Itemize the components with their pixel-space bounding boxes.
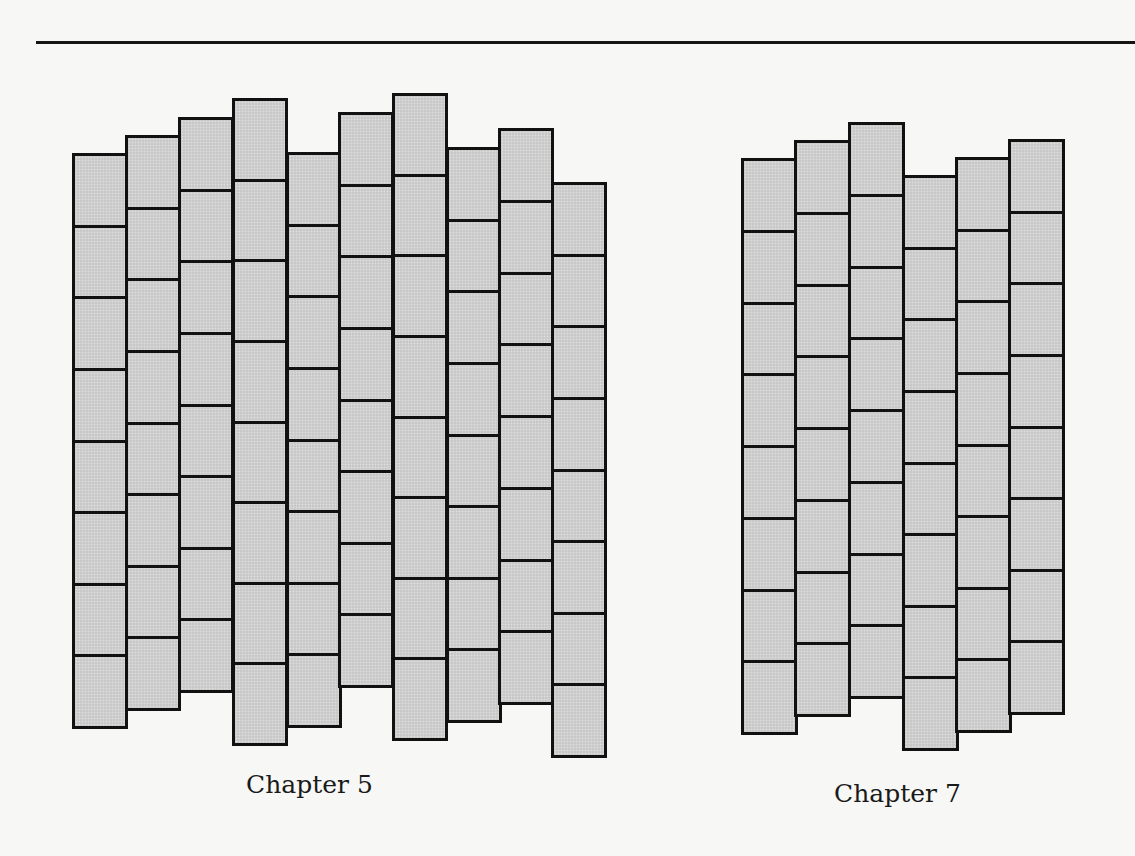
brick-divider [1011,282,1062,285]
brick-divider [1011,211,1062,214]
brick-divider [958,658,1009,661]
brick-divider [797,284,848,287]
brick-divider [851,409,902,412]
caption-chapter-7: Chapter 7 [834,779,961,808]
brick-divider [851,481,902,484]
brick-divider [797,355,848,358]
brick-divider [851,337,902,340]
brick-divider [905,390,956,393]
brick-divider [958,229,1009,232]
brick-divider [905,462,956,465]
brick-divider [1011,426,1062,429]
brick-divider [905,247,956,250]
brick-divider [958,300,1009,303]
brick-divider [744,660,795,663]
brick-divider [1011,569,1062,572]
brick-divider [744,445,795,448]
brick-divider [1011,354,1062,357]
brick-divider [797,427,848,430]
brick-column [955,157,1012,733]
brick-column [741,158,798,735]
brick-divider [744,302,795,305]
brick-divider [744,589,795,592]
brick-divider [958,372,1009,375]
brick-divider [905,318,956,321]
brick-column [1008,139,1065,715]
brick-divider [905,605,956,608]
brick-divider [851,194,902,197]
brick-divider [1011,497,1062,500]
brick-divider [744,373,795,376]
brick-divider [958,515,1009,518]
brick-divider [744,230,795,233]
brick-divider [744,517,795,520]
brick-divider [797,571,848,574]
figure-chapter-7 [0,0,1135,856]
brick-divider [851,266,902,269]
brick-column [902,175,959,751]
brick-column [794,140,851,717]
brick-divider [958,587,1009,590]
brick-divider [1011,640,1062,643]
brick-column [848,122,905,699]
brick-divider [958,444,1009,447]
brick-divider [905,676,956,679]
brick-divider [851,624,902,627]
brick-divider [905,533,956,536]
brick-divider [851,553,902,556]
brick-divider [797,212,848,215]
brick-divider [797,499,848,502]
brick-divider [797,642,848,645]
